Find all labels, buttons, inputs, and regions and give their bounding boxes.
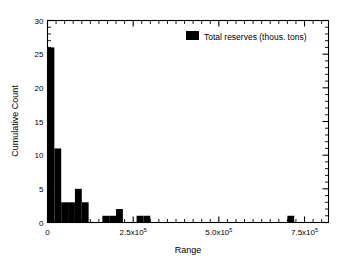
y-tick-label: 30 <box>35 17 44 26</box>
bar <box>137 216 144 223</box>
bar <box>116 209 123 222</box>
legend-swatch-total-reserves <box>186 31 199 40</box>
bar <box>109 216 116 223</box>
x-tick-label: 2.5x105 <box>120 227 147 237</box>
x-axis-ticks <box>48 21 322 223</box>
x-axis-title: Range <box>175 245 202 255</box>
bar <box>82 202 89 222</box>
bar <box>102 216 109 223</box>
y-tick-label: 20 <box>35 84 44 93</box>
bar <box>143 216 150 223</box>
y-axis-title: Cumulative Count <box>10 85 20 157</box>
plot-frame <box>48 21 329 223</box>
x-tick-label: 5.0x105 <box>205 227 232 237</box>
bar <box>54 148 61 222</box>
bar <box>75 189 82 223</box>
y-tick-label: 15 <box>35 118 44 127</box>
bar <box>287 216 294 223</box>
y-axis-tick-labels: 051015202530 <box>35 17 44 228</box>
bar <box>48 47 55 222</box>
chart-container: 02.5x1055.0x1057.5x105 051015202530 Rang… <box>0 0 354 262</box>
bar <box>68 202 75 222</box>
cumulative-count-histogram: 02.5x1055.0x1057.5x105 051015202530 Rang… <box>0 0 354 262</box>
bar-series <box>48 47 295 222</box>
y-tick-label: 0 <box>39 219 44 228</box>
chart-legend: Total reserves (thous. tons) <box>186 31 307 42</box>
y-axis-ticks <box>48 21 329 223</box>
x-tick-label: 7.5x105 <box>291 227 318 237</box>
y-tick-label: 10 <box>35 151 44 160</box>
bar <box>61 202 68 222</box>
y-tick-label: 5 <box>39 185 44 194</box>
y-tick-label: 25 <box>35 50 44 59</box>
legend-label-total-reserves: Total reserves (thous. tons) <box>204 32 307 42</box>
x-axis-tick-labels: 02.5x1055.0x1057.5x105 <box>45 227 318 237</box>
x-tick-label: 0 <box>45 228 50 237</box>
